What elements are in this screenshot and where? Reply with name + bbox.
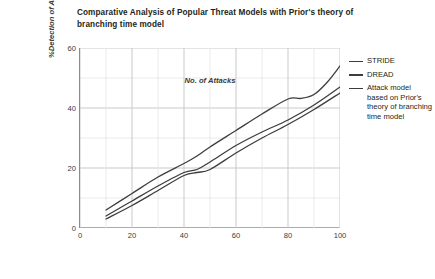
chart-legend: STRIDEDREADAttack model based on Prior's… <box>349 56 433 126</box>
legend-item-label: Attack model based on Prior's theory of … <box>367 83 433 121</box>
legend-line-swatch-icon <box>349 61 363 63</box>
legend-line-swatch-icon <box>349 88 363 90</box>
legend-item[interactable]: Attack model based on Prior's theory of … <box>349 83 433 121</box>
plot-canvas <box>80 48 340 228</box>
x-tick-label: 20 <box>128 231 136 240</box>
y-tick-label: 60 <box>68 44 76 53</box>
legend-line-swatch-icon <box>349 74 363 76</box>
plot-area: %Detection of Attacks No. of Attacks 020… <box>79 48 339 228</box>
legend-item[interactable]: STRIDE <box>349 56 433 66</box>
legend-item-label: STRIDE <box>367 56 395 66</box>
x-tick-label: 60 <box>232 231 240 240</box>
x-axis-label: No. of Attacks <box>80 76 340 85</box>
legend-item[interactable]: DREAD <box>349 70 433 80</box>
chart-figure: Comparative Analysis of Popular Threat M… <box>0 0 435 279</box>
x-tick-label: 40 <box>180 231 188 240</box>
y-tick-label: 20 <box>68 164 76 173</box>
chart-title: Comparative Analysis of Popular Threat M… <box>77 7 377 30</box>
y-tick-label: 40 <box>68 104 76 113</box>
x-tick-label: 80 <box>284 231 292 240</box>
legend-item-label: DREAD <box>367 70 394 80</box>
x-tick-label: 0 <box>78 231 82 240</box>
series-line-1 <box>106 93 340 219</box>
y-tick-label: 0 <box>72 224 76 233</box>
x-tick-label: 100 <box>334 231 347 240</box>
series-line-0 <box>106 87 340 216</box>
y-axis-label: %Detection of Attacks <box>47 0 56 78</box>
